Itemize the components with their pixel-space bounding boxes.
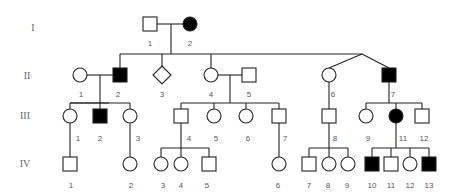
individual-number-label: 9: [345, 181, 350, 190]
individual-number-label: 13: [425, 181, 434, 190]
individual-number-label: 11: [399, 134, 408, 143]
male-square-icon: [272, 109, 286, 123]
pedigree-chart: 121234567123456789111212345678910111213 …: [0, 0, 454, 196]
male-square-icon: [143, 17, 157, 31]
pedigree-line: [329, 54, 362, 68]
individual-number-label: 8: [326, 181, 331, 190]
generation-labels: IIIIIIIV: [20, 22, 35, 169]
individual-number-label: 1: [79, 90, 84, 99]
female-circle-icon: [207, 109, 221, 123]
individual-number-label: 3: [161, 181, 166, 190]
pedigree-line: [362, 54, 389, 68]
generation-label: III: [20, 110, 30, 121]
individual-number-label: 2: [98, 134, 103, 143]
individual-number-label: 6: [276, 181, 281, 190]
individual-number-label: 7: [391, 90, 396, 99]
individual-number-label: 4: [179, 181, 184, 190]
affected-male-square-icon: [365, 157, 379, 171]
individual-number-label: 10: [368, 181, 377, 190]
male-square-icon: [202, 157, 216, 171]
female-circle-icon: [154, 157, 168, 171]
male-square-icon: [415, 109, 429, 123]
male-square-icon: [242, 68, 256, 82]
female-circle-icon: [341, 157, 355, 171]
individual-number-label: 2: [188, 39, 193, 48]
individual-number-label: 6: [246, 134, 251, 143]
female-circle-icon: [123, 157, 137, 171]
male-square-icon: [322, 109, 336, 123]
affected-female-circle-icon: [389, 109, 403, 123]
generation-label: II: [24, 70, 31, 81]
individual-number-label: 8: [333, 134, 338, 143]
individual-number-label: 7: [283, 134, 288, 143]
female-circle-icon: [403, 157, 417, 171]
individual-number-label: 9: [366, 134, 371, 143]
individual-number-label: 3: [160, 90, 165, 99]
individual-number-label: 4: [187, 134, 192, 143]
affected-male-square-icon: [113, 68, 127, 82]
female-circle-icon: [123, 109, 137, 123]
affected-male-square-icon: [93, 109, 107, 123]
individual-number-label: 1: [76, 134, 81, 143]
male-square-icon: [174, 109, 188, 123]
individual-number-label: 6: [331, 90, 336, 99]
affected-male-square-icon: [382, 68, 396, 82]
generation-label: I: [31, 22, 34, 33]
individual-number-label: 1: [148, 39, 153, 48]
individual-number-label: 1: [69, 181, 74, 190]
female-circle-icon: [322, 68, 336, 82]
individual-number-label: 4: [209, 90, 214, 99]
individual-number-label: 12: [420, 134, 429, 143]
male-square-icon: [302, 157, 316, 171]
female-circle-icon: [359, 109, 373, 123]
affected-male-square-icon: [422, 157, 436, 171]
female-circle-icon: [63, 109, 77, 123]
male-square-icon: [384, 157, 398, 171]
individual-number-label: 3: [136, 134, 141, 143]
individual-number-label: 12: [406, 181, 415, 190]
generation-label: IV: [20, 158, 31, 169]
pedigree-svg: 121234567123456789111212345678910111213 …: [0, 0, 454, 196]
female-circle-icon: [239, 109, 253, 123]
individual-number-label: 5: [214, 134, 219, 143]
unknown-sex-diamond-icon: [153, 66, 171, 84]
female-circle-icon: [322, 157, 336, 171]
individual-number-label: 11: [387, 181, 396, 190]
female-circle-icon: [73, 68, 87, 82]
male-square-icon: [63, 157, 77, 171]
individual-number-label: 2: [116, 90, 121, 99]
female-circle-icon: [272, 157, 286, 171]
individual-number-label: 7: [307, 181, 312, 190]
affected-female-circle-icon: [183, 17, 197, 31]
individual-number-label: 2: [129, 181, 134, 190]
female-circle-icon: [174, 157, 188, 171]
individual-number-label: 5: [205, 181, 210, 190]
individual-number-label: 5: [247, 90, 252, 99]
female-circle-icon: [204, 68, 218, 82]
